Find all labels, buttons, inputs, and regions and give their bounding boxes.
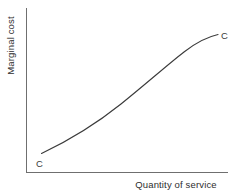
x-axis-title: Quantity of service <box>126 179 226 190</box>
marginal-cost-chart: C C Marginal cost Quantity of service <box>0 0 232 194</box>
y-axis-title: Marginal cost <box>0 0 20 90</box>
chart-plot-area: C C <box>0 0 232 194</box>
curve-end-label: C <box>221 30 228 41</box>
marginal-cost-curve <box>42 35 219 154</box>
y-axis-title-text: Marginal cost <box>5 16 16 74</box>
curve-start-label: C <box>36 158 43 169</box>
